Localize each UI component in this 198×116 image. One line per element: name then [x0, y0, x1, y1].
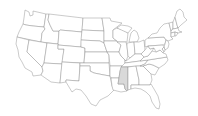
state-washington[interactable]	[23, 10, 46, 27]
us-map	[0, 0, 198, 116]
state-connecticut[interactable]	[171, 32, 175, 37]
state-layer	[16, 9, 187, 109]
state-kansas[interactable]	[84, 52, 109, 63]
state-montana[interactable]	[48, 14, 83, 32]
state-arizona[interactable]	[41, 63, 62, 83]
state-wyoming[interactable]	[58, 30, 82, 47]
state-north-dakota[interactable]	[82, 18, 104, 31]
state-new-mexico[interactable]	[60, 62, 80, 83]
state-florida[interactable]	[131, 84, 160, 109]
